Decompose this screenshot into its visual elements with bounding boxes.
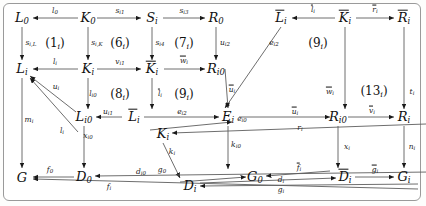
arrow-label-lbar_i_mid: li <box>158 90 162 99</box>
arrow-label-xi0: xi0 <box>83 132 93 141</box>
node-kbar_i2: Ki <box>146 62 158 77</box>
arrow-label-ui1: ui1 <box>103 108 113 117</box>
square-label-sq9b: (9i) <box>308 37 328 51</box>
node-ki: Ki <box>82 62 94 77</box>
diagram-canvas: L0K0SiR0LiKiRiLiKiKiRi0Li0LiEiRi0RiKiGD0… <box>0 0 426 206</box>
arrow-label-f0: f0 <box>47 166 53 175</box>
arrow-label-wbar_i_mid: wi <box>180 57 188 66</box>
arrow-label-ti: ti <box>410 88 415 97</box>
square-label-sq13: (13i) <box>360 85 387 99</box>
node-ri0b: Ri0 <box>329 110 347 125</box>
arrow-label-ki: ki <box>169 148 175 157</box>
arrow-label-ui2: ui2 <box>220 39 230 48</box>
node-ri0: Ri0 <box>207 62 225 77</box>
arrow-label-si3: si3 <box>179 7 188 16</box>
node-ki2: Ki <box>157 127 169 142</box>
node-k0: K0 <box>80 11 95 26</box>
node-li: Li <box>16 62 27 77</box>
node-di: Di <box>183 179 196 194</box>
node-kbar_i: Ki <box>339 11 351 26</box>
node-g: G <box>17 171 27 184</box>
arrow-label-vi1: vi1 <box>115 58 125 67</box>
arrow-label-li: li <box>53 58 57 67</box>
arrow-label-li0: li0 <box>89 90 97 99</box>
arrow-label-ri: ri <box>297 124 302 133</box>
arrow-label-g0: g0 <box>158 166 166 175</box>
arrow-label-gi: gi <box>278 186 285 195</box>
node-gi: Gi <box>397 170 410 185</box>
arrow-label-ni: ni <box>409 143 416 152</box>
node-rbar_i: Ri <box>398 11 411 26</box>
square-label-sq1: (1i) <box>45 37 65 51</box>
node-ei: Ei <box>222 110 234 125</box>
arrow-label-ui_diag: ui <box>53 83 60 92</box>
node-lbar_i2: Li <box>128 110 139 125</box>
arrow-label-li_curve: li <box>60 127 64 136</box>
arrow-label-ubar_i_right: ui <box>292 108 299 117</box>
arrow-label-xi: xi <box>344 143 350 152</box>
node-lbar_i: Li <box>275 11 286 26</box>
arrow-label-l0: l0 <box>52 7 58 16</box>
arrow-label-ebar_i2: ei2 <box>269 39 279 48</box>
arrow-label-lbar_i_top: li <box>311 6 315 15</box>
arrow-label-sil: si,L <box>25 39 36 48</box>
arrow-label-vbar_i: vi <box>369 107 375 116</box>
arrow-label-ei0: ei0 <box>237 115 247 124</box>
arrow-label-di0: di0 <box>136 168 146 177</box>
arrow-label-si1: si1 <box>115 7 124 16</box>
arrow-label-gbar_i: gi <box>372 166 379 175</box>
square-label-sq7: (7i) <box>174 37 194 51</box>
square-label-sq6: (6i) <box>110 37 130 51</box>
square-label-sq9a: (9i) <box>174 88 194 102</box>
arrow-label-ki0: ki0 <box>231 141 241 150</box>
square-label-sq8: (8i) <box>110 88 130 102</box>
arrow-label-fbar_i: fi <box>297 164 302 173</box>
arrow-label-di: di <box>278 176 285 185</box>
arrow-label-mi: mi <box>25 116 34 125</box>
node-dbar_i: Di <box>338 170 351 185</box>
node-r0: R0 <box>208 11 223 26</box>
node-si: Si <box>146 11 158 26</box>
node-l0: L0 <box>15 11 29 26</box>
diagram-arrows <box>0 0 426 206</box>
arrow-label-fi: fi <box>107 183 112 192</box>
arrow-label-sik: si,K <box>91 39 102 48</box>
arrow-label-wbar_i_right: wi <box>326 88 334 97</box>
node-ri: Ri <box>398 110 411 125</box>
arrow-label-ei2: ei2 <box>177 108 187 117</box>
node-d0: D0 <box>76 170 92 185</box>
node-g0: G0 <box>247 170 263 185</box>
arrow-label-si4: si4 <box>155 39 164 48</box>
arrow-label-rbar_i_top: ri <box>372 6 377 15</box>
node-li0: Li0 <box>76 110 93 125</box>
arrow-label-ubar_i_diag: ui <box>229 86 236 95</box>
